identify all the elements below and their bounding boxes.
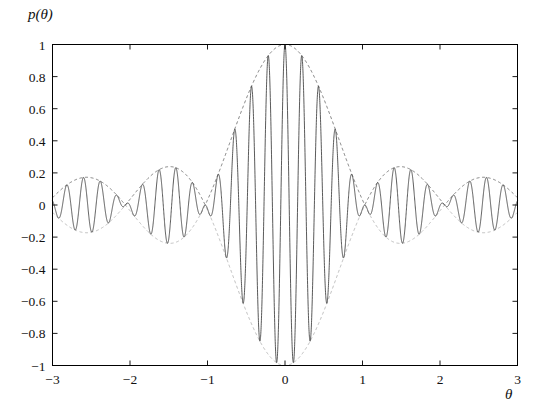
upper-envelope-curve — [53, 45, 518, 206]
axis-ticks — [53, 45, 518, 366]
tick-label: 1 — [359, 372, 366, 387]
lower-envelope-curve — [53, 205, 518, 366]
tick-label: 0.6 — [29, 102, 46, 117]
tick-label: −3 — [45, 372, 60, 387]
tick-label: −0.6 — [21, 294, 46, 309]
chart-figure: p(θ) θ −3−2−10123−1−0.8−0.6−0.4−0.200.20… — [0, 0, 534, 413]
tick-label: 0.2 — [29, 166, 46, 181]
x-axis-label: θ — [505, 386, 512, 403]
axis-tick-labels: −3−2−10123−1−0.8−0.6−0.4−0.200.20.40.60.… — [21, 38, 521, 387]
tick-label: −0.2 — [21, 230, 46, 245]
tick-label: 0 — [39, 198, 46, 213]
tick-label: −0.4 — [21, 262, 46, 277]
tick-label: −0.8 — [21, 326, 46, 341]
tick-label: −1 — [200, 372, 214, 387]
tick-label: −2 — [123, 372, 137, 387]
tick-label: 0 — [282, 372, 289, 387]
main-curve — [53, 45, 518, 363]
tick-label: −1 — [31, 359, 45, 374]
tick-label: 0.8 — [29, 70, 46, 85]
y-axis-label: p(θ) — [28, 6, 53, 23]
axes-frame — [53, 45, 518, 366]
tick-label: 0.4 — [29, 134, 46, 149]
tick-label: 1 — [39, 38, 46, 53]
tick-label: 3 — [514, 372, 521, 387]
tick-label: 2 — [437, 372, 444, 387]
plot-area: −3−2−10123−1−0.8−0.6−0.4−0.200.20.40.60.… — [0, 0, 534, 413]
